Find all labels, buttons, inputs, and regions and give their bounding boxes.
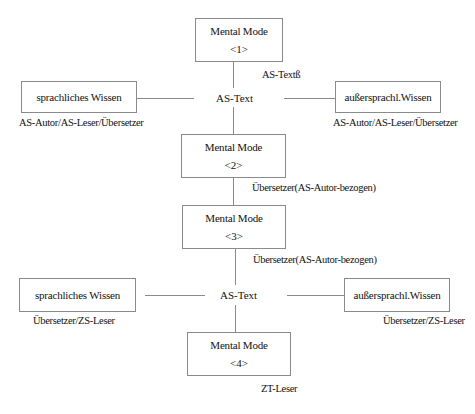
connector-astext-mm2 [233,107,234,134]
mental-mode-3-box: Mental Mode <3> [182,205,286,249]
sprachliches-wissen-label-bottom: sprachliches Wissen [35,288,120,302]
aussersprachl-wissen-caption-top: AS-Autor/AS-Leser/Übersetzer [333,117,458,129]
connector-left-astext-top [136,98,194,99]
mental-mode-2-title: Mental Mode [205,140,262,154]
mental-mode-4-title: Mental Mode [210,338,267,352]
mental-mode-1-number: <1> [230,42,248,56]
mental-mode-3-number: <3> [225,229,243,243]
aussersprachl-wissen-box-top: außersprachl.Wissen [335,81,441,113]
as-text-node-bottom: AS-Text [220,289,257,302]
mental-mode-2-box: Mental Mode <2> [181,134,286,178]
sprachliches-wissen-caption-top: AS-Autor/AS-Leser/Übersetzer [19,117,144,129]
mental-mode-2-number: <2> [225,158,243,172]
aussersprachl-wissen-label-bottom: außersprachl.Wissen [353,288,440,302]
sprachliches-wissen-caption-bottom: Übersetzer/ZS-Leser [33,315,115,327]
connector-mm3-astext [235,248,236,285]
mental-mode-1-annotation: AS-Textß [262,69,300,81]
connector-right-astext-top [284,98,335,99]
connector-right-astext-bottom [287,295,344,296]
as-text-node-top: AS-Text [216,92,253,105]
sprachliches-wissen-box-bottom: sprachliches Wissen [19,278,136,312]
aussersprachl-wissen-box-bottom: außersprachl.Wissen [344,278,450,312]
mental-mode-4-number: <4> [230,356,248,370]
connector-mm1-astext [233,61,234,88]
mental-mode-4-box: Mental Mode <4> [187,332,291,376]
connector-astext-mm4 [235,305,236,332]
aussersprachl-wissen-label-top: außersprachl.Wissen [344,90,431,104]
connector-left-astext-bottom [145,295,205,296]
mental-mode-3-title: Mental Mode [205,211,262,225]
mental-mode-3-annotation: Übersetzer(AS-Autor-bezogen) [253,254,377,266]
mental-mode-4-annotation: ZT-Leser [261,383,297,395]
sprachliches-wissen-box-top: sprachliches Wissen [21,81,137,113]
aussersprachl-wissen-caption-bottom: Übersetzer/ZS-Leser [383,315,465,327]
mental-mode-1-box: Mental Mode <1> [195,18,283,62]
mental-mode-1-title: Mental Mode [210,24,267,38]
sprachliches-wissen-label-top: sprachliches Wissen [36,90,121,104]
connector-mm2-mm3 [233,177,234,205]
mental-mode-2-annotation: Übersetzer(AS-Autor-bezogen) [252,182,376,194]
